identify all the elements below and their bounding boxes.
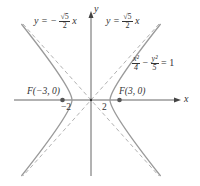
vertex-right-tick-label: 2 — [102, 103, 107, 113]
asymptote-left-den: 2 — [59, 22, 69, 30]
asymptote-left-prefix: y = − — [34, 15, 57, 26]
x-axis-label: x — [184, 94, 188, 104]
focus-right-label: F(3, 0) — [119, 87, 145, 97]
equation-term2-den: 5 — [151, 64, 159, 72]
equation-minus: − — [142, 57, 148, 68]
asymptote-right-prefix: y = — [106, 15, 120, 26]
asymptote-left-suffix: x — [72, 15, 76, 26]
hyperbola-equation: x² 4 − y² 5 = 1 — [132, 55, 174, 72]
origin-point — [90, 99, 92, 101]
equation-term1: x² 4 — [132, 55, 140, 72]
focus-right-point — [117, 98, 122, 103]
asymptote-left-label: y = − √5 2 x — [34, 13, 77, 30]
asymptote-right-suffix: x — [135, 15, 139, 26]
asymptote-right-fraction: √5 2 — [122, 13, 132, 30]
y-axis-arrow-icon — [89, 11, 94, 18]
focus-left-label: F(−3, 0) — [27, 87, 60, 97]
y-axis-label: y — [94, 4, 98, 14]
vertex-left-tick-label: −2 — [61, 103, 71, 113]
x-axis-arrow-icon — [174, 98, 181, 103]
equation-rhs: = 1 — [161, 57, 174, 68]
equation-term2: y² 5 — [151, 55, 159, 72]
asymptote-left-fraction: √5 2 — [59, 13, 69, 30]
asymptote-right-den: 2 — [122, 22, 132, 30]
equation-term1-den: 4 — [132, 64, 140, 72]
asymptote-right-label: y = √5 2 x — [106, 13, 140, 30]
